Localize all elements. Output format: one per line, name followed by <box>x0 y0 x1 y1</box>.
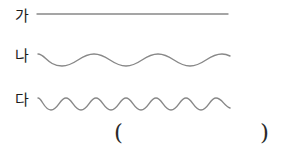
open-paren: ( <box>114 116 123 148</box>
wave-row-ga: 가 <box>0 2 283 42</box>
wave-path-na <box>38 54 230 66</box>
close-paren: ) <box>260 116 269 148</box>
answer-bracket: ( ) <box>0 116 283 152</box>
wave-row-na: 나 <box>0 42 283 82</box>
long-wavelength-wave-svg <box>36 42 236 82</box>
wave-graphic-na <box>36 42 236 82</box>
answer-input-blank[interactable] <box>128 120 256 146</box>
wave-comparison-figure: 가 나 다 ( ) <box>0 0 283 155</box>
straight-line-svg <box>36 2 236 42</box>
wave-path-da <box>38 98 230 110</box>
wave-graphic-ga <box>36 2 236 42</box>
